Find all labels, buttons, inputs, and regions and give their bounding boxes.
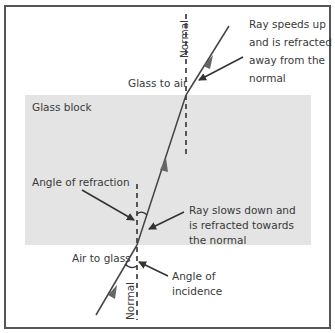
- pointer-arrow-slows-down: [149, 212, 184, 229]
- normal-label-bottom: Normal: [124, 282, 136, 320]
- pointer-arrow-speeds-up: [199, 57, 243, 80]
- ray-direction-arrow-icon: [203, 55, 213, 69]
- annotation-line: incidence: [172, 284, 222, 299]
- normal-label-top: Normal: [178, 20, 190, 58]
- glass-block-label: Glass block: [32, 100, 92, 115]
- annotation-line: Ray speeds up: [249, 15, 332, 33]
- refraction-angle-arc: [137, 212, 147, 215]
- air-to-glass-label: Air to glass: [72, 251, 131, 266]
- annotation-line: Angle of: [172, 269, 222, 284]
- annotation-line: away from the: [249, 51, 332, 69]
- annotation-line: is refracted towards: [189, 218, 296, 233]
- pointer-arrow-refraction: [82, 190, 134, 220]
- annotation-line: Ray slows down and: [189, 203, 296, 218]
- annotation-line: and is refracted: [249, 33, 332, 51]
- slows-down-annotation: Ray slows down and is refracted towards …: [189, 203, 296, 248]
- speeds-up-annotation: Ray speeds up and is refracted away from…: [249, 15, 332, 87]
- emergent-ray: [186, 26, 229, 95]
- annotation-line: normal: [249, 69, 332, 87]
- annotation-line: the normal: [189, 233, 296, 248]
- angle-of-incidence-label: Angle of incidence: [172, 269, 222, 299]
- glass-to-air-label: Glass to air: [128, 76, 187, 91]
- pointer-arrow-incidence: [139, 262, 168, 276]
- angle-of-refraction-label: Angle of refraction: [32, 175, 130, 190]
